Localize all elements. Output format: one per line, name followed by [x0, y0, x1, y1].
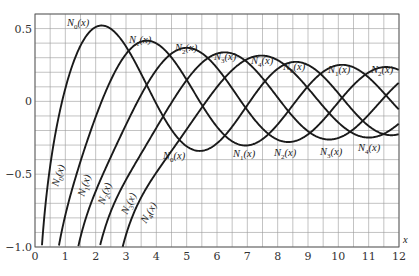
bessel-neumann-chart: 0123456789101112 0.50−0.5−1.0 x N0(x)N1(… — [0, 0, 419, 276]
x-axis-label: x — [402, 234, 408, 245]
y-tick-label: 0 — [25, 95, 32, 108]
curve-label: N0(x) — [49, 163, 70, 190]
x-tick-label: 11 — [362, 250, 376, 263]
x-tick-label: 0 — [32, 250, 39, 263]
x-axis-ticks: 0123456789101112 — [32, 250, 407, 263]
x-tick-label: 2 — [92, 250, 99, 263]
curve-label: N2(x) — [370, 64, 394, 78]
curve-label: N3(x) — [319, 146, 343, 160]
x-tick-label: 8 — [274, 250, 281, 263]
x-tick-label: 12 — [392, 250, 406, 263]
x-tick-label: 7 — [244, 250, 251, 263]
x-tick-label: 4 — [153, 250, 160, 263]
x-tick-label: 1 — [62, 250, 69, 263]
x-tick-label: 3 — [123, 250, 130, 263]
curve-label: N2(x) — [174, 42, 198, 56]
y-tick-label: −0.5 — [5, 168, 32, 181]
curve-label: N0(x) — [162, 150, 186, 164]
x-tick-label: 6 — [214, 250, 221, 263]
curve-label: N1(x) — [128, 34, 152, 48]
x-tick-label: 5 — [183, 250, 190, 263]
curve-label: N3(x) — [213, 51, 237, 65]
curve-n2x — [78, 48, 398, 246]
curve-labels: N0(x)N1(x)N2(x)N3(x)N4(x)N0(x)N1(x)N2(x)… — [49, 17, 394, 227]
y-tick-label: 0.5 — [15, 23, 33, 36]
curve-label: N1(x) — [327, 64, 351, 78]
curve-label: N1(x) — [75, 173, 96, 200]
curve-label: N0(x) — [66, 17, 90, 31]
y-tick-label: −1.0 — [5, 241, 32, 254]
y-axis-ticks: 0.50−0.5−1.0 — [5, 23, 32, 254]
x-tick-label: 10 — [331, 250, 345, 263]
x-tick-label: 9 — [305, 250, 312, 263]
grid — [35, 14, 399, 247]
